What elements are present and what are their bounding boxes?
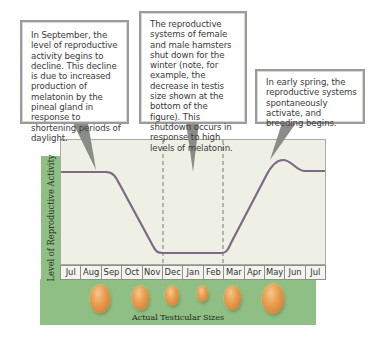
month-label: Nov (143, 266, 163, 279)
month-label: Jan (183, 266, 203, 279)
month-label: Jun (285, 266, 305, 279)
callout-winter: The reproductive systems of female and m… (139, 11, 247, 124)
testis-icon-mar (224, 286, 241, 310)
testis-icon-jan (197, 286, 208, 302)
x-axis-caption: Actual Testicular Sizes (40, 313, 316, 322)
testis-icon-may (262, 284, 284, 314)
reproductive-activity-curve (61, 160, 325, 253)
month-label: Dec (163, 266, 183, 279)
callout-winter-text: The reproductive systems of female and m… (150, 19, 233, 153)
callout-spring-text: In early spring, the reproductive system… (266, 77, 357, 128)
month-label: Sep (102, 266, 122, 279)
callout-spring: In early spring, the reproductive system… (255, 69, 365, 124)
month-label: Feb (204, 266, 224, 279)
month-label: Oct (122, 266, 142, 279)
callout-september: In September, the level of reproductive … (20, 20, 129, 124)
month-label: Apr (245, 266, 265, 279)
testis-icon-oct (132, 286, 149, 310)
callout-september-text: In September, the level of reproductive … (31, 30, 121, 143)
month-label: Jul (306, 266, 325, 279)
testis-icon-aug (90, 285, 110, 313)
month-label: Mar (224, 266, 244, 279)
month-label: May (265, 266, 285, 279)
month-label: Jul (61, 266, 81, 279)
callout-pointer-spring (270, 123, 296, 160)
month-axis: Jul Aug Sep Oct Nov Dec Jan Feb Mar Apr … (60, 265, 326, 280)
month-label: Aug (81, 266, 101, 279)
testis-icon-dec (165, 286, 179, 306)
